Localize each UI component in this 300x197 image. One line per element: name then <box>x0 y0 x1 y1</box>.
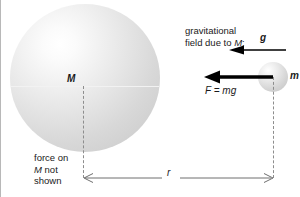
g-field-label: g <box>260 32 266 43</box>
force-note-line-3: shown <box>34 175 68 187</box>
test-mass-label: m <box>290 70 299 81</box>
force-note-line-2: M not <box>34 164 68 176</box>
distance-label: r <box>167 167 170 178</box>
physics-figure: r M m g gravitational field due to M: F … <box>0 0 300 197</box>
distance-label-backdrop <box>162 170 180 183</box>
field-caption: gravitational field due to M: <box>185 25 245 48</box>
field-caption-line-2: field due to M: <box>185 37 245 49</box>
force-equation-label: F = mg <box>205 85 236 96</box>
massive-body-label: M <box>67 73 75 84</box>
force-note-line-1: force on <box>34 152 68 164</box>
field-caption-line-1: gravitational <box>185 25 245 37</box>
force-arrow <box>204 71 273 84</box>
force-note: force on M not shown <box>34 152 68 187</box>
